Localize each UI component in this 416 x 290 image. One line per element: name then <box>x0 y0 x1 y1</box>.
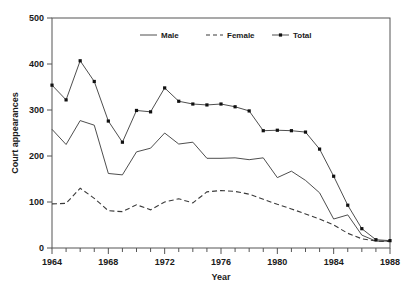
x-tick-label: 1988 <box>380 257 400 267</box>
data-point-marker <box>177 100 180 103</box>
legend-label-total: Total <box>293 31 312 40</box>
plot-frame <box>52 18 390 248</box>
legend-label-female: Female <box>227 31 255 40</box>
x-tick-label: 1968 <box>98 257 118 267</box>
chart-screenshot: 0100200300400500 19641968197219761980198… <box>0 0 416 290</box>
x-tick-label: 1984 <box>324 257 344 267</box>
legend-swatch-marker <box>279 33 282 36</box>
data-point-marker <box>346 204 349 207</box>
series-line-female <box>52 188 390 241</box>
data-point-marker <box>290 129 293 132</box>
x-tick-label: 1976 <box>211 257 231 267</box>
line-chart: 0100200300400500 19641968197219761980198… <box>0 0 416 290</box>
data-point-marker <box>262 129 265 132</box>
x-axis-title: Year <box>211 272 231 282</box>
x-tick-label: 1972 <box>155 257 175 267</box>
data-point-marker <box>233 105 236 108</box>
data-point-marker <box>374 238 377 241</box>
data-point-marker <box>318 148 321 151</box>
y-tick-label: 100 <box>29 197 44 207</box>
series-layer <box>50 59 391 242</box>
y-tick-label: 0 <box>39 243 44 253</box>
data-point-marker <box>50 84 53 87</box>
data-point-marker <box>332 175 335 178</box>
data-point-marker <box>93 80 96 83</box>
data-point-marker <box>121 141 124 144</box>
x-axis: 1964196819721976198019841988 <box>42 248 400 267</box>
y-tick-label: 200 <box>29 151 44 161</box>
legend-label-male: Male <box>161 31 179 40</box>
chart-legend: MaleFemaleTotal <box>140 31 312 40</box>
y-axis: 0100200300400500 <box>29 13 52 253</box>
series-line-male <box>52 121 390 242</box>
data-point-marker <box>79 59 82 62</box>
y-tick-label: 500 <box>29 13 44 23</box>
data-point-marker <box>248 109 251 112</box>
data-point-marker <box>205 103 208 106</box>
y-tick-label: 300 <box>29 105 44 115</box>
y-tick-label: 400 <box>29 59 44 69</box>
data-point-marker <box>219 102 222 105</box>
data-point-marker <box>64 98 67 101</box>
data-point-marker <box>135 109 138 112</box>
y-axis-title: Court appearances <box>10 92 20 174</box>
data-point-marker <box>163 86 166 89</box>
data-point-marker <box>360 227 363 230</box>
series-line-total <box>52 61 390 241</box>
data-point-marker <box>304 130 307 133</box>
x-tick-label: 1980 <box>267 257 287 267</box>
data-point-marker <box>149 110 152 113</box>
data-point-marker <box>388 239 391 242</box>
data-point-marker <box>276 129 279 132</box>
data-point-marker <box>107 119 110 122</box>
x-tick-label: 1964 <box>42 257 62 267</box>
data-point-marker <box>191 102 194 105</box>
